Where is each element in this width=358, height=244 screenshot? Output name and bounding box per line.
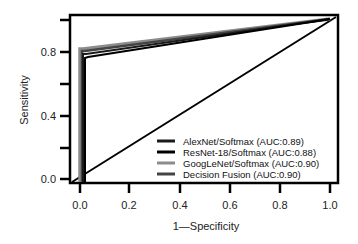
x-tick-1.0: 1.0 bbox=[322, 199, 337, 211]
y-tick-0.8: 0.8 bbox=[41, 46, 56, 58]
legend-label-resnet18: ResNet-18/Softmax (AUC:0.88) bbox=[183, 147, 316, 158]
legend-label-decision-fusion: Decision Fusion (AUC:0.90) bbox=[183, 169, 301, 180]
y-tick-0.0: 0.0 bbox=[41, 173, 56, 185]
x-tick-0.6: 0.6 bbox=[222, 199, 237, 211]
y-axis: 0.8 0.4 0.0 Sensitivity bbox=[18, 20, 70, 185]
x-axis: 0.0 0.2 0.4 0.6 0.8 1.0 1—Specificity bbox=[72, 183, 337, 232]
legend-label-googlenet: GoogLeNet/Softmax (AUC:0.90) bbox=[183, 158, 319, 169]
x-tick-0.2: 0.2 bbox=[121, 199, 136, 211]
x-axis-label: 1—Specificity bbox=[173, 220, 240, 232]
legend-label-alexnet: AlexNet/Softmax (AUC:0.89) bbox=[183, 136, 304, 147]
x-tick-0.8: 0.8 bbox=[272, 199, 287, 211]
x-tick-0.4: 0.4 bbox=[172, 199, 187, 211]
y-axis-label: Sensitivity bbox=[18, 75, 30, 125]
x-tick-0.0: 0.0 bbox=[72, 199, 87, 211]
y-tick-0.4: 0.4 bbox=[41, 110, 56, 122]
roc-chart: 0.8 0.4 0.0 Sensitivity 0.0 0.2 0.4 0.6 … bbox=[0, 0, 358, 244]
